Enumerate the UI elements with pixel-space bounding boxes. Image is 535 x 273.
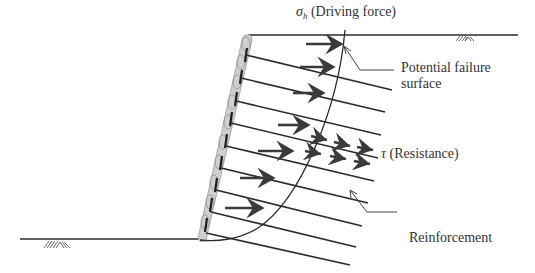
wall-facing [198,35,252,242]
driving-force-label: σh (Driving force) [296,4,396,24]
resistance-text: (Resistance) [386,146,459,161]
bottom-ground-hatch-icon [44,241,70,248]
top-ground-hatch-icon [456,36,474,41]
resistance-arrows [305,136,373,164]
reinforcement-label: Reinforcement [409,230,492,246]
failure-surface-line1: Potential failure [401,60,491,76]
failure-leader-line [344,46,394,70]
failure-surface-label: Potential failure surface [401,60,491,92]
resistance-label: τ (Resistance) [381,146,459,162]
driving-force-text: (Driving force) [307,4,396,19]
sigma-symbol: σ [296,4,303,19]
reinforced-wall-diagram: σh (Driving force) Potential failure sur… [0,0,535,273]
failure-surface-line2: surface [401,76,491,92]
